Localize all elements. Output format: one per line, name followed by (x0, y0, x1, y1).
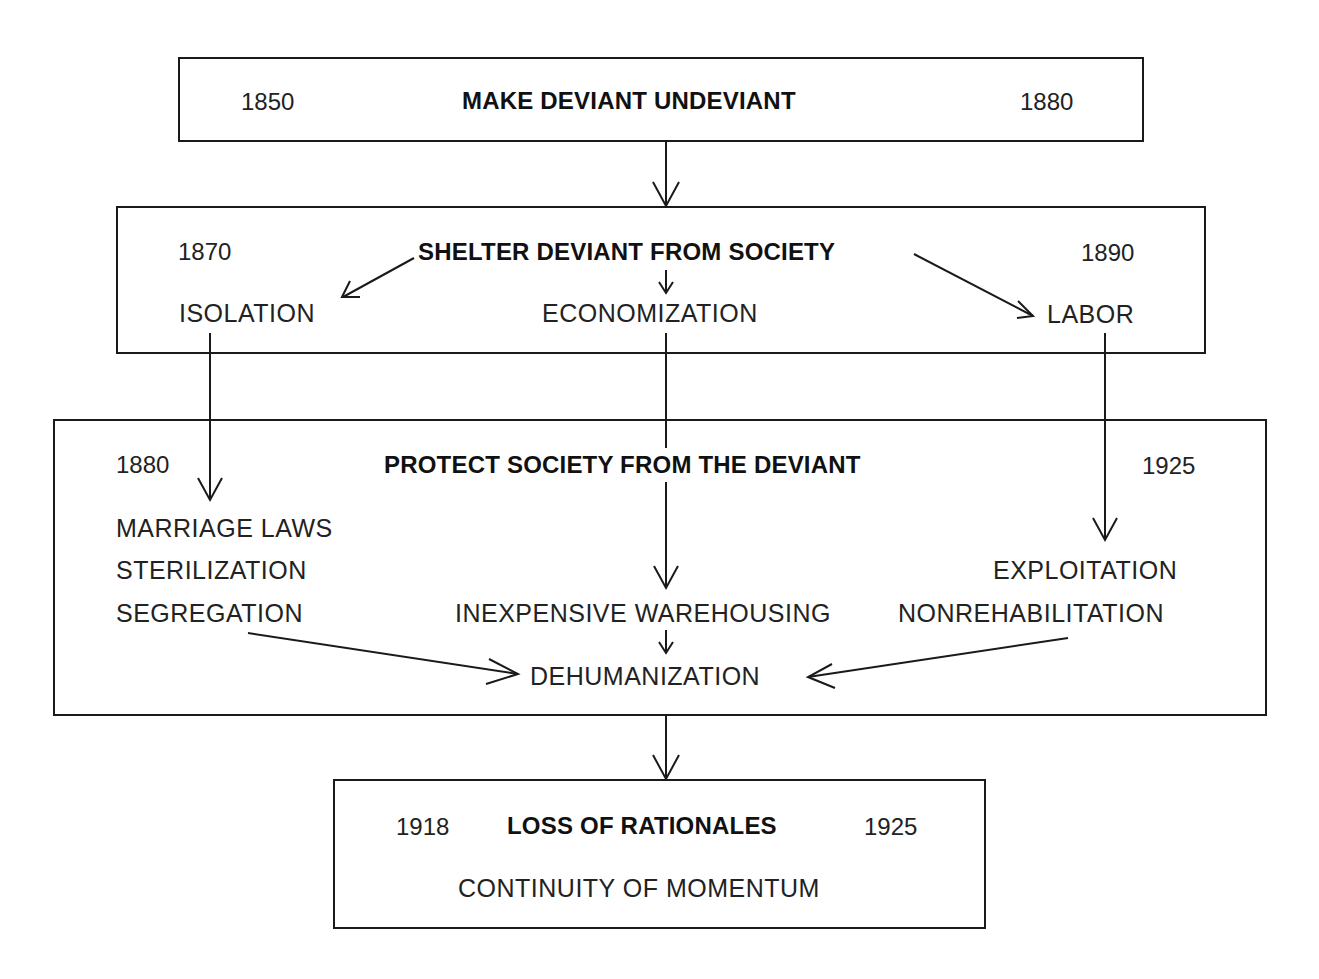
stage4-start-year: 1918 (396, 815, 449, 839)
stage1-title: MAKE DEVIANT UNDEVIANT (462, 89, 796, 113)
stage3-title: PROTECT SOCIETY FROM THE DEVIANT (384, 453, 861, 477)
item-segregation: SEGREGATION (116, 601, 303, 626)
stage4-box (333, 779, 986, 929)
stage2-end-year: 1890 (1081, 241, 1134, 265)
stage4-title: LOSS OF RATIONALES (507, 814, 777, 838)
stage2-title: SHELTER DEVIANT FROM SOCIETY (418, 240, 835, 264)
item-exploitation: EXPLOITATION (993, 558, 1177, 583)
item-nonrehabilitation: NONREHABILITATION (898, 601, 1164, 626)
item-dehumanization: DEHUMANIZATION (530, 664, 760, 689)
branch-economization: ECONOMIZATION (542, 301, 758, 326)
item-sterilization: STERILIZATION (116, 558, 307, 583)
stage2-box (116, 206, 1206, 354)
stage3-start-year: 1880 (116, 453, 169, 477)
stage3-end-year: 1925 (1142, 454, 1195, 478)
stage4-subtitle: CONTINUITY OF MOMENTUM (458, 876, 820, 901)
item-inexpensive-warehousing: INEXPENSIVE WAREHOUSING (455, 601, 831, 626)
branch-isolation: ISOLATION (179, 301, 315, 326)
stage2-start-year: 1870 (178, 240, 231, 264)
branch-labor: LABOR (1047, 302, 1134, 327)
stage1-start-year: 1850 (241, 90, 294, 114)
stage1-end-year: 1880 (1020, 90, 1073, 114)
item-marriage-laws: MARRIAGE LAWS (116, 516, 333, 541)
stage4-end-year: 1925 (864, 815, 917, 839)
